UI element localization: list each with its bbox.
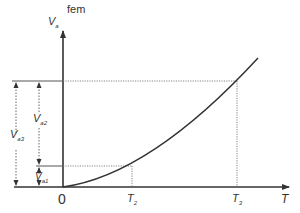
fem-curve xyxy=(63,58,258,187)
label-va2: Va2 xyxy=(33,112,48,126)
tick-t3: T3 xyxy=(232,192,243,206)
label-va3: Va3 xyxy=(10,128,25,142)
label-va1: Va1 xyxy=(35,171,48,184)
tick-t2: T2 xyxy=(127,192,138,206)
y-axis-symbol: Va xyxy=(48,15,59,29)
origin-label: 0 xyxy=(58,191,66,207)
fem-vs-time-diagram: fem Va Va3 Va2 Va1 0 T2 T3 T xyxy=(0,0,300,213)
y-axis-title: fem xyxy=(67,3,85,15)
x-axis-symbol: T xyxy=(281,192,290,206)
